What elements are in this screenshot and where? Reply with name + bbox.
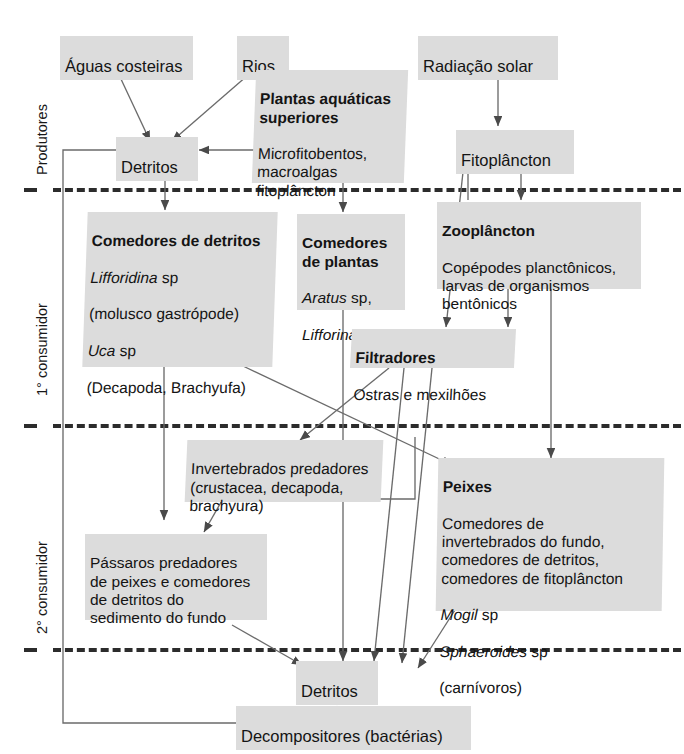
node-body: Copépodes planctônicos, larvas de organi…	[442, 259, 616, 313]
node-invertebrados-predadores[interactable]: Invertebrados predadores (crustacea, dec…	[185, 440, 384, 502]
species-suffix: sp	[157, 269, 178, 286]
species-name: Lifforina	[302, 326, 357, 343]
level-tick-produtores	[24, 188, 37, 192]
node-title: Peixes	[443, 478, 659, 496]
node-species-2: Sphaeroides sp	[440, 643, 548, 660]
node-title: Comedores de plantas	[302, 234, 400, 271]
node-species-1: Aratus sp,	[302, 289, 372, 306]
node-title: Zooplâncton	[442, 222, 636, 240]
node-peixes[interactable]: Peixes Comedores de invertebrados do fun…	[436, 458, 665, 611]
level-tick-consumidor-1	[24, 424, 37, 428]
node-label: Decompositores (bactérias)	[241, 727, 443, 745]
node-decompositores[interactable]: Decompositores (bactérias)	[236, 706, 471, 750]
node-title: Comedores de detritos	[91, 232, 272, 250]
wire-filtradores-to-detritos-base	[374, 368, 404, 661]
level-separator-2	[53, 424, 681, 428]
node-comedores-de-detritos[interactable]: Comedores de detritos Lifforidina sp (mo…	[82, 212, 277, 367]
level-label-consumidor-2: 2° consumidor	[34, 541, 50, 634]
node-passaros-predadores[interactable]: Pássaros predadores de peixes e comedore…	[85, 534, 267, 620]
node-species-1-note: (molusco gastrópode)	[89, 305, 240, 322]
species-suffix: sp,	[347, 289, 372, 306]
node-title: Filtradores	[355, 349, 510, 367]
node-species-2-note: (carnívoros)	[439, 679, 522, 696]
level-label-produtores: Produtores	[34, 104, 50, 175]
node-comedores-de-plantas[interactable]: Comedores de plantas Aratus sp, Lifforin…	[297, 214, 405, 310]
node-species-2-note: (Decapoda, Brachyufa)	[86, 379, 246, 396]
node-body: Microfitobentos, macroalgas fitoplâncton	[256, 145, 367, 199]
node-label: Detritos	[121, 158, 178, 176]
node-label: Detritos	[301, 682, 358, 700]
node-body: Comedores de invertebrados do fundo, com…	[441, 515, 623, 587]
species-name: Uca	[88, 342, 116, 359]
food-web-diagram: Produtores 1° consumidor 2° consumidor	[0, 0, 684, 754]
level-tick-consumidor-2	[24, 648, 37, 652]
node-body: Ostras e mexilhões	[353, 386, 487, 403]
node-zooplancton[interactable]: Zooplâncton Copépodes planctônicos, larv…	[437, 202, 641, 289]
node-body: Invertebrados predadores (crustacea, dec…	[189, 460, 369, 514]
node-detritos-base[interactable]: Detritos	[296, 661, 378, 705]
node-title: Plantas aquáticas superiores	[259, 90, 402, 127]
level-label-consumidor-1: 1° consumidor	[34, 303, 50, 396]
node-label: Fitoplâncton	[461, 151, 551, 169]
node-plantas-aquaticas-superiores[interactable]: Plantas aquáticas superiores Microfitobe…	[252, 70, 408, 183]
node-label: Águas costeiras	[65, 57, 182, 75]
node-label: Radiação solar	[423, 57, 533, 75]
species-name: Lifforidina	[90, 269, 158, 286]
species-name: Aratus	[302, 289, 347, 306]
species-suffix: sp	[115, 342, 136, 359]
node-species-1: Lifforidina sp	[90, 269, 178, 286]
species-name: Mogil	[440, 606, 477, 623]
species-suffix: sp	[477, 606, 498, 623]
wire-filtradores-to-detritos-base-2	[402, 368, 432, 663]
node-species-2: Uca sp	[88, 342, 137, 359]
node-radiacao-solar[interactable]: Radiação solar	[418, 36, 558, 80]
node-aguas-costeiras[interactable]: Águas costeiras	[60, 36, 193, 80]
node-body: Pássaros predadores de peixes e comedore…	[90, 554, 250, 626]
node-detritos-topo[interactable]: Detritos	[116, 137, 198, 181]
wire-passaros-to-detritos-base	[232, 625, 302, 665]
species-suffix: sp	[527, 643, 548, 660]
node-filtradores[interactable]: Filtradores Ostras e mexilhões	[350, 329, 516, 368]
species-name: Sphaeroides	[440, 643, 527, 660]
node-species-1: Mogil sp	[440, 606, 498, 623]
node-fitoplancton[interactable]: Fitoplâncton	[456, 130, 574, 174]
